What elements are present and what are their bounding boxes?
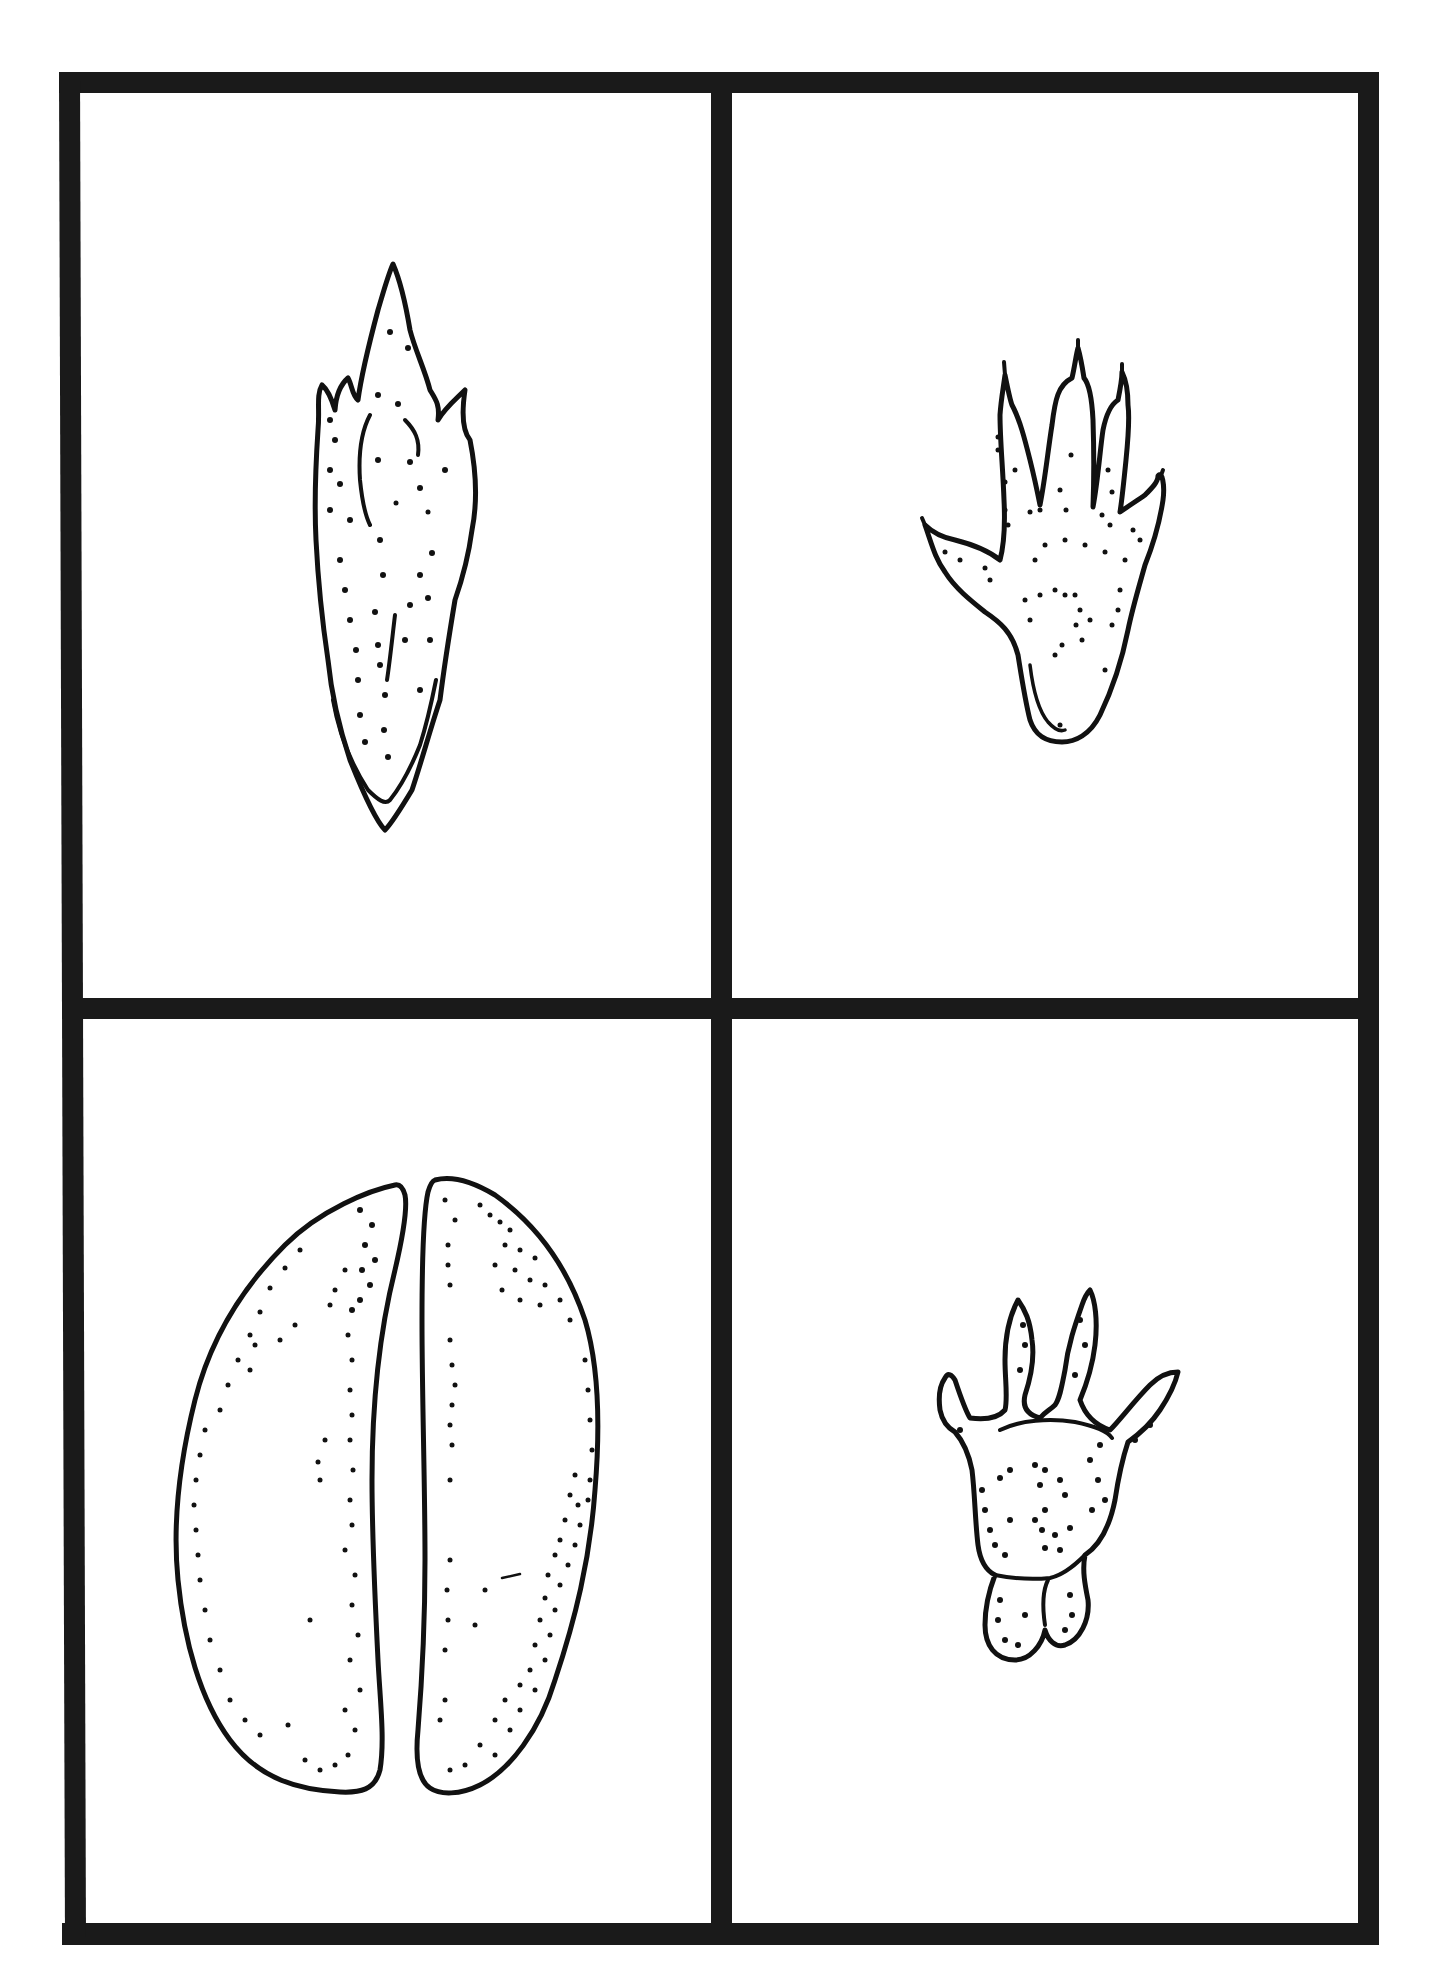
track-inner-arc: [405, 420, 418, 455]
grid-frame: [59, 72, 1379, 1945]
track-outline-inner: [333, 680, 436, 802]
paw-heel-division: [1043, 1580, 1048, 1625]
panel-bottom-right-paw: [939, 1290, 1178, 1660]
hoof-left-half: [176, 1185, 406, 1792]
track-inner-line: [359, 415, 370, 525]
panel-bottom-left-hoof: [176, 1179, 598, 1793]
track-outline-outer: [315, 264, 475, 830]
frame-horizontal-divider: [62, 998, 1379, 1019]
track-illustration-figure: [0, 0, 1444, 1976]
paw-heel-inner: [1030, 665, 1065, 731]
track-inner-stroke: [387, 615, 395, 680]
paw-outline: [939, 1290, 1178, 1660]
paw-heel-upper-line: [995, 1555, 1085, 1579]
panel-top-left-track: [315, 264, 475, 830]
panel-top-right-paw: [922, 340, 1164, 742]
